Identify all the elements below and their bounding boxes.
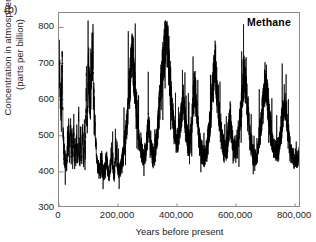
- x-axis-tick-marks: [59, 204, 295, 208]
- y-tick-label: 800: [20, 20, 54, 31]
- plot-area: Methane: [58, 12, 300, 207]
- y-axis-tick-labels: 300400500600700800: [18, 0, 54, 242]
- figure-panel-b: (b) Concentration in atmosphere (parts p…: [0, 0, 316, 242]
- x-axis-tick-labels: 0200,000400,000600,000800,000: [0, 209, 316, 225]
- x-axis-label: Years before present: [58, 226, 301, 237]
- y-axis-label-line1: Concentration in atmosphere: [2, 0, 14, 141]
- series-title: Methane: [247, 16, 291, 28]
- x-tick-label: 200,000: [100, 209, 134, 220]
- x-tick-label: 400,000: [159, 209, 193, 220]
- methane-data-line: [59, 20, 299, 189]
- x-tick-label: 600,000: [218, 209, 252, 220]
- x-tick-label: 800,000: [277, 209, 311, 220]
- y-tick-label: 600: [20, 93, 54, 104]
- y-tick-label: 500: [20, 129, 54, 140]
- y-tick-label: 400: [20, 165, 54, 176]
- y-tick-label: 700: [20, 57, 54, 68]
- x-tick-label: 0: [55, 209, 60, 220]
- methane-line-chart: [59, 13, 300, 207]
